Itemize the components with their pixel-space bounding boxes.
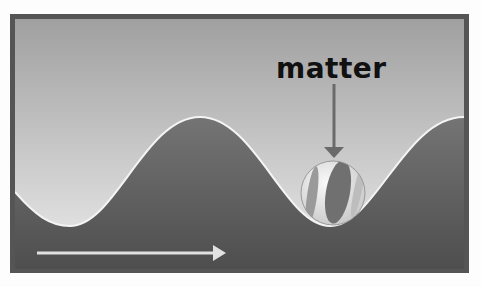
diagram: matter — [0, 0, 481, 287]
wave-diagram — [0, 0, 481, 287]
matter-label: matter — [276, 52, 387, 85]
